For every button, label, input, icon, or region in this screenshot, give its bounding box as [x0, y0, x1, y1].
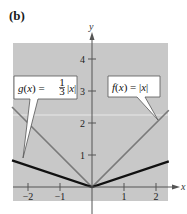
g-abs: |x|: [67, 82, 76, 94]
g-frac-den: 3: [59, 85, 65, 97]
x-tick-label: −1: [55, 191, 66, 202]
x-tick-label: 2: [154, 191, 159, 202]
g-callout-label: g(x) =: [18, 82, 45, 95]
chart: xy−2−1121234 g(x) = 13|x|f(x) = |x|: [0, 0, 187, 214]
x-tick-label: −2: [23, 191, 34, 202]
x-tick-label: 1: [122, 191, 127, 202]
y-tick-label: 3: [80, 86, 85, 97]
y-tick-label: 2: [80, 118, 85, 129]
y-tick-label: 1: [80, 150, 85, 161]
y-axis-arrow-icon: [90, 32, 95, 40]
plot-background: [13, 43, 168, 201]
x-axis-label: x: [180, 181, 186, 192]
x-axis-arrow-icon: [172, 185, 180, 190]
f-callout-label: f(x) = |x|: [112, 81, 148, 94]
y-axis-label: y: [88, 21, 94, 32]
y-tick-label: 4: [80, 54, 85, 65]
